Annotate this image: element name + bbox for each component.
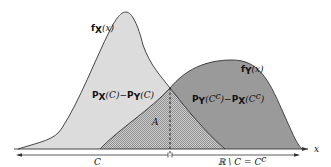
region-c-label: C	[94, 157, 101, 167]
axis-label-x: x	[314, 144, 319, 154]
density-comparison-diagram: fX(x) fY(x) PX(C)−PY(C) PY(Cc)−PX(Cc) A …	[0, 0, 331, 167]
region-complement-label: ℝ \ C = Cc	[218, 154, 266, 167]
x-axis-arrowhead	[302, 147, 308, 151]
region-c-arrowhead-left	[16, 153, 22, 156]
overlap-label-a: A	[151, 117, 159, 127]
region-complement-arrowhead-right	[294, 153, 300, 156]
